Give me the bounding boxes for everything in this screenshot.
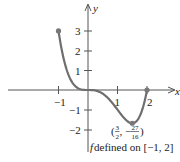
x-axis-label: x	[174, 85, 180, 97]
y-tick-label-1: 1	[75, 65, 81, 77]
svg-text:27: 27	[132, 124, 140, 132]
y-tick-label-2: 2	[75, 45, 81, 57]
y-tick-label-neg1: −1	[69, 104, 81, 116]
y-tick-label-3: 3	[75, 25, 81, 37]
domain-annotation: f defined on [−1, 2]	[90, 141, 174, 153]
x-tick-label-1: 1	[115, 96, 121, 108]
endpoint-right-marker	[144, 87, 149, 92]
x-tick-label-neg1: −1	[54, 96, 66, 108]
endpoint-left-marker	[56, 28, 61, 33]
svg-text:defined on [−1, 2]: defined on [−1, 2]	[94, 141, 174, 153]
x-tick-label-2: 2	[147, 96, 153, 108]
svg-text:): )	[140, 125, 144, 138]
svg-text:, −: , −	[120, 125, 132, 137]
function-plot: x y −1 1 2 3 2 1 −1 −2 ( 3 2 , − 27 16 )…	[0, 0, 180, 162]
svg-text:(: (	[111, 125, 115, 138]
y-tick-label-neg2: −2	[69, 124, 81, 136]
y-axis-label: y	[92, 2, 98, 14]
svg-text:16: 16	[132, 133, 140, 141]
minimum-point-label: ( 3 2 , − 27 16 )	[111, 124, 144, 141]
